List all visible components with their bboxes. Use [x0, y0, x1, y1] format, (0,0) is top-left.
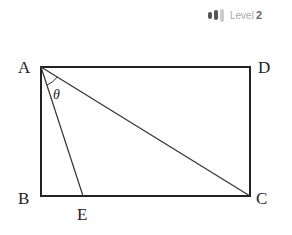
segment-ae [41, 67, 83, 196]
label-e: E [77, 205, 87, 224]
label-theta: θ [53, 87, 60, 102]
diagonal-ac [41, 67, 250, 196]
angle-arc [47, 77, 57, 85]
geometry-diagram: A D B C E θ [0, 0, 292, 235]
label-b: B [18, 189, 29, 208]
label-d: D [258, 58, 270, 77]
label-a: A [18, 58, 31, 77]
label-c: C [256, 189, 267, 208]
